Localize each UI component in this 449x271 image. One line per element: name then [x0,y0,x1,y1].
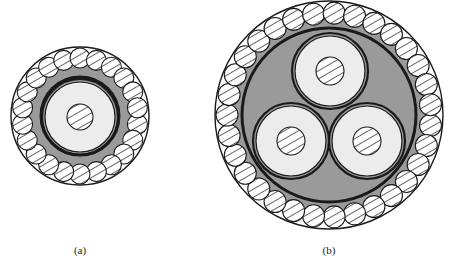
armor-wire [218,83,240,105]
caption-a: (a) [74,244,86,256]
armor-wire [303,3,325,25]
armor-wire [224,144,246,166]
conductor [253,103,329,179]
armor-wire [216,104,238,126]
armor-wire [419,94,441,116]
armor-wire [419,114,441,136]
conductor-core [277,127,305,155]
conductor-core [67,104,93,130]
conductor [292,33,368,109]
armor-wire [283,8,305,30]
conductor [329,103,405,179]
armor-wire [344,203,366,225]
cable-b-three-core [215,1,443,229]
cable-a-single-core [11,47,149,185]
armor-wire [218,125,240,147]
caption-b: (b) [323,244,336,256]
conductor-core [353,127,381,155]
conductor [42,79,118,155]
armor-wire [323,206,345,228]
armor-wire [303,205,325,227]
cable-cross-section-diagram [0,0,449,271]
armor-wire [344,5,366,27]
armor-wire [127,98,147,118]
armor-wire [363,196,385,218]
armor-wire [415,73,437,95]
armor-wire [323,2,345,24]
conductor-core [316,57,344,85]
